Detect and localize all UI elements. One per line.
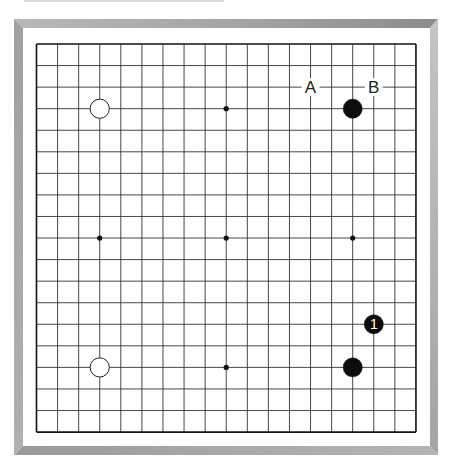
move-number-label: 1 xyxy=(370,316,378,332)
black-stone[interactable] xyxy=(343,358,362,377)
star-point-icon xyxy=(350,235,355,240)
white-stone-icon xyxy=(90,358,109,377)
star-point-icon xyxy=(224,235,229,240)
white-stone-icon xyxy=(90,99,109,118)
black-stone[interactable]: 1 xyxy=(364,315,383,334)
black-stone-icon xyxy=(343,99,362,118)
marker-label-a: A xyxy=(305,78,317,97)
go-board[interactable]: AB 1 xyxy=(0,0,456,472)
white-stone[interactable] xyxy=(90,358,109,377)
marker-label-b: B xyxy=(368,78,379,97)
black-stone-icon xyxy=(343,358,362,377)
letter-markers: AB xyxy=(302,78,383,97)
white-stone[interactable] xyxy=(90,99,109,118)
star-point-icon xyxy=(224,365,229,370)
star-point-icon xyxy=(97,235,102,240)
star-point-icon xyxy=(224,106,229,111)
black-stone[interactable] xyxy=(343,99,362,118)
